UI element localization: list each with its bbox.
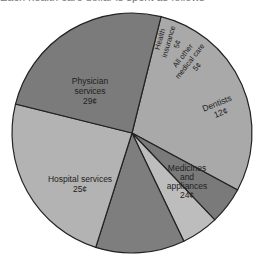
svg-text:24¢: 24¢ (180, 190, 194, 200)
pie-slices (12, 13, 252, 253)
svg-text:25¢: 25¢ (73, 184, 87, 194)
svg-text:29¢: 29¢ (83, 96, 97, 106)
svg-text:Hospital services: Hospital services (48, 174, 112, 184)
svg-text:Physician: Physician (72, 76, 109, 86)
svg-text:services: services (74, 86, 105, 96)
pie-chart: Physician services 29¢ Health insurance … (0, 0, 262, 263)
